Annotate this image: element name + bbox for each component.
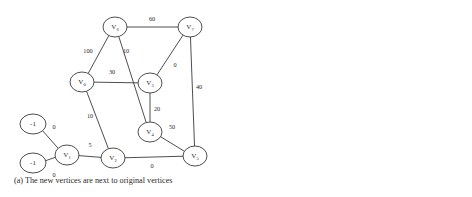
edge-weight-label: 20: [154, 105, 160, 112]
graph-edge: [157, 35, 183, 75]
graph-edge: [43, 131, 59, 149]
edge-weight-label: 50: [169, 123, 175, 130]
graph-node: -1: [20, 153, 46, 173]
graph-node: V2: [101, 148, 125, 168]
edge-weight-label: 5: [88, 141, 91, 148]
graph-node: V4: [138, 122, 162, 142]
graph-edge: [161, 137, 185, 152]
graph-panel: V6V7V0V3V4V5V2V1-1-1 6010010300402050105…: [0, 0, 236, 197]
panel-a-caption: (a) The new vertices are next to origina…: [14, 176, 173, 185]
edge-weight-label: 0: [52, 123, 55, 130]
graph-diagram: V6V7V0V3V4V5V2V1-1-1 6010010300402050105…: [0, 0, 236, 197]
array-panel: 01223455 (b) The assist array: [236, 0, 472, 197]
node-layer: V6V7V0V3V4V5V2V1-1-1: [20, 17, 207, 173]
edge-weight-label: 30: [109, 68, 115, 75]
graph-node: -1: [20, 114, 46, 134]
graph-edge: [87, 91, 109, 148]
edge-weight-label: 0: [173, 61, 176, 68]
graph-node: V1: [55, 145, 79, 165]
edge-weight-label: 10: [87, 112, 93, 119]
graph-edge: [88, 36, 109, 74]
edge-layer: [43, 27, 195, 161]
graph-node: V5: [183, 146, 207, 166]
edge-weight-label: 10: [123, 47, 129, 54]
figure-page: V6V7V0V3V4V5V2V1-1-1 6010010300402050105…: [0, 0, 472, 197]
edge-weight-label: 60: [149, 15, 155, 22]
graph-node: V7: [178, 17, 202, 37]
graph-node: V3: [138, 73, 162, 93]
graph-edge: [125, 156, 183, 158]
edge-weight-label: 100: [83, 47, 92, 54]
graph-edge: [79, 156, 101, 158]
graph-edge: [94, 82, 138, 83]
graph-node: V0: [70, 72, 94, 92]
graph-node: V6: [103, 17, 127, 37]
edge-weight-label: 0: [150, 162, 153, 169]
graph-edge: [190, 37, 194, 146]
edge-weight-label: 40: [196, 83, 202, 90]
node-label: -1: [30, 120, 36, 128]
node-label: -1: [30, 159, 36, 167]
graph-edge: [46, 157, 56, 160]
